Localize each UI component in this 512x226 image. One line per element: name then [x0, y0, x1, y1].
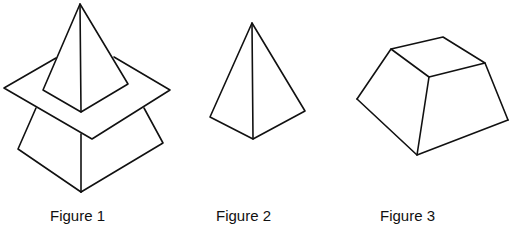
- figure-3-caption: Figure 3: [380, 207, 435, 224]
- figure-1-plane: [4, 57, 170, 139]
- figure-3-top-face: [391, 37, 485, 77]
- figure-2-pyramid-outline: [210, 23, 305, 139]
- diagram-canvas: [0, 0, 512, 226]
- figure-3-left-edge: [357, 49, 391, 99]
- figure-2-caption: Figure 2: [216, 207, 271, 224]
- figure-3-front-edge: [417, 77, 429, 155]
- figure-2-pyramid-front-edge: [252, 23, 253, 139]
- figure-3-right-edge: [485, 63, 508, 120]
- figure-1-pyramid-front-edge: [80, 4, 81, 112]
- figure-2-drawing: [210, 23, 305, 139]
- figure-1-caption: Figure 1: [50, 207, 105, 224]
- figure-1-drawing: [4, 4, 170, 192]
- figure-1-frustum-left-edge: [18, 108, 81, 192]
- figure-3-drawing: [357, 37, 508, 155]
- figure-3-base: [357, 99, 508, 155]
